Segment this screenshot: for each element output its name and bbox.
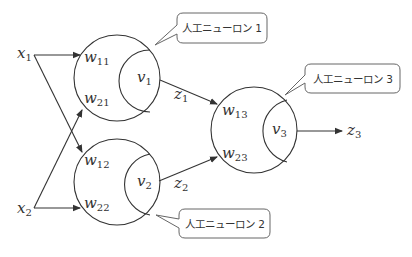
- callout-neuron-2: 人工ニューロン 2: [156, 209, 270, 238]
- callout-neuron-1: 人工ニューロン 1: [155, 13, 267, 45]
- output-z3: z3: [346, 121, 361, 140]
- callout-neuron-3: 人工ニューロン 3: [285, 64, 400, 95]
- callout-neuron-2-label: 人工ニューロン 2: [185, 218, 265, 230]
- output-z1: z1: [173, 85, 188, 104]
- weight-w12: w12: [84, 151, 110, 170]
- x2-subscript: 2: [25, 207, 31, 218]
- weight-w13: w13: [222, 101, 248, 120]
- callout-neuron-1-label: 人工ニューロン 1: [182, 22, 262, 34]
- weight-w23: w23: [222, 144, 248, 163]
- output-z2: z2: [173, 174, 188, 193]
- input-label-x2: x2: [17, 199, 32, 218]
- edge-z1: [160, 80, 217, 104]
- svg-text:x1: x1: [17, 44, 32, 63]
- neural-network-diagram: 人工ニューロン 1 人工ニューロン 3 人工ニューロン 2 x1 x2 w11 …: [0, 0, 412, 257]
- input-connections: [34, 55, 82, 208]
- edge-z2: [159, 157, 217, 181]
- input-label-x1: x1: [17, 44, 32, 63]
- activation-v2: v2: [137, 172, 152, 191]
- weight-w22: w22: [84, 194, 110, 213]
- svg-text:x2: x2: [17, 199, 32, 218]
- x1-subscript: 1: [25, 52, 31, 63]
- weight-w21: w21: [84, 89, 110, 108]
- activation-v1: v1: [137, 68, 152, 87]
- callout-neuron-3-label: 人工ニューロン 3: [313, 73, 393, 85]
- weight-w11: w11: [84, 48, 110, 67]
- activation-v3: v3: [272, 120, 287, 139]
- edge-x2-w21: [34, 110, 82, 208]
